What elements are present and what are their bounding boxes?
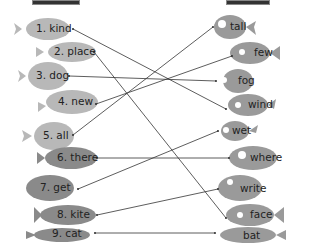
fish-label: wind [248,98,273,110]
fish-label: face [250,208,272,220]
fish-label: fog [238,74,255,86]
line-get-wet [78,131,218,189]
fish-label: 6. there [57,151,98,163]
fish-label: bat [243,229,260,241]
fish-label: 4. new [58,95,93,107]
fish-label: write [240,182,266,194]
fish-label: where [250,151,282,163]
fish-label: wet [232,124,251,136]
fish-label: few [254,46,273,58]
fish-label: 5. all [43,129,69,141]
fish-label: tall [230,20,246,32]
fish-label: 9. cat [52,227,82,239]
line-all-tall [73,27,213,135]
fish-label: 7. get [40,181,71,193]
fish-label: 3. dog [36,69,69,81]
line-dog-fog [69,76,216,81]
fish-label: 1. kind [36,22,72,34]
line-place-face [94,52,226,218]
line-kind-wind [73,29,226,109]
fish-label: 8. kite [57,208,90,220]
line-kite-write [97,189,218,215]
fish-label: 2. place [54,45,96,57]
